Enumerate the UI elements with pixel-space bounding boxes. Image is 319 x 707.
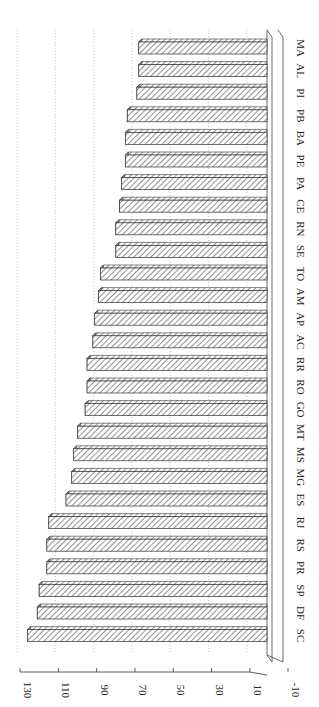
tick-label: 30 (214, 685, 226, 697)
bar-mt (78, 423, 268, 438)
category-label: RR (295, 357, 307, 372)
bar-am (99, 288, 267, 303)
category-label: CE (295, 199, 307, 213)
tick-label: 50 (175, 685, 187, 697)
category-label: RS (295, 538, 307, 551)
bar-ms (74, 446, 267, 461)
bar-pb (127, 107, 267, 122)
bar-ac (93, 333, 267, 348)
bar-sc (28, 627, 267, 642)
bar-ap (95, 310, 267, 325)
category-label: AC (295, 334, 307, 349)
category-label: MT (295, 424, 307, 441)
value-axis: -101030507090110130 (20, 668, 302, 699)
category-label: SC (295, 629, 307, 642)
tick-label: 70 (137, 685, 149, 697)
category-label: AM (295, 288, 307, 306)
bar-al (139, 62, 267, 77)
category-label: BA (295, 131, 307, 146)
bar-rr (87, 355, 267, 370)
category-label: AP (295, 312, 307, 326)
tick-label: 110 (60, 682, 72, 699)
bar-se (116, 242, 267, 257)
category-label: RO (295, 379, 307, 394)
category-axis: SCDFSPPRRSRJESMGMSMTGORORRACAPAMTOSERNCE… (295, 39, 307, 642)
category-label: PR (295, 561, 307, 575)
category-label: PA (295, 177, 307, 190)
bar-rs (47, 536, 267, 551)
bar-ma (139, 39, 267, 54)
bar-to (100, 265, 267, 280)
category-label: ES (295, 494, 307, 507)
bar-chart: -101030507090110130 SCDFSPPRRSRJESMGMSMT… (0, 0, 319, 707)
category-label: RN (295, 221, 307, 236)
bar-rj (49, 514, 267, 529)
category-label: SP (295, 584, 307, 596)
tick-label: 10 (252, 685, 264, 697)
category-label: MG (295, 469, 307, 487)
bar-go (85, 401, 267, 416)
category-label: GO (295, 402, 307, 418)
bar-df (37, 604, 267, 619)
category-label: PB (295, 109, 307, 122)
bar-ro (87, 378, 267, 393)
category-label: TO (295, 267, 307, 282)
bar-pi (137, 84, 267, 99)
bar-pa (122, 175, 267, 190)
bar-rn (116, 220, 267, 235)
category-label: DF (295, 606, 307, 620)
category-label: AL (295, 63, 307, 78)
category-label: SE (295, 245, 307, 258)
bar-es (66, 491, 267, 506)
bars (28, 39, 267, 642)
tick-label: 90 (99, 685, 111, 697)
bar-mg (72, 468, 267, 483)
bar-pe (125, 152, 267, 167)
chart-floor (267, 30, 283, 662)
bar-sp (39, 581, 267, 596)
category-label: PE (295, 155, 307, 168)
bar-ce (120, 197, 267, 212)
bar-ba (125, 129, 267, 144)
tick-label: 130 (22, 682, 34, 699)
bar-pr (47, 559, 267, 574)
category-label: MA (295, 39, 307, 57)
category-label: RJ (295, 517, 307, 529)
category-label: MS (295, 447, 307, 463)
category-label: PI (295, 88, 307, 98)
tick-label: -10 (290, 683, 302, 698)
